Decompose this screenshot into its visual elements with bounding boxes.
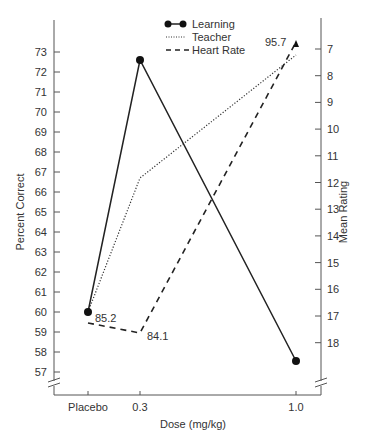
right-tick-label: 11: [327, 150, 338, 162]
right-tick-label: 9: [327, 96, 333, 108]
series-teacher: [88, 55, 296, 312]
legend-learning: Learning: [192, 18, 235, 30]
y-left-axis-title: Percent Correct: [14, 173, 26, 250]
legend-teacher: Teacher: [192, 31, 231, 43]
x-tick-1-0: 1.0: [288, 401, 303, 413]
legend: Learning Teacher Heart Rate: [165, 18, 246, 56]
learning-marker-placebo: [84, 308, 92, 316]
left-tick-label: 65: [35, 206, 47, 218]
left-tick-label: 66: [35, 186, 47, 198]
heart-rate-triangle-marker: [293, 40, 299, 47]
legend-learning-dot-left: [165, 21, 172, 28]
left-tick-label: 70: [35, 106, 47, 118]
series-learning: [88, 60, 296, 361]
right-tick-label: 10: [327, 123, 339, 135]
left-tick-label: 61: [35, 286, 47, 298]
left-tick-label: 72: [35, 66, 47, 78]
learning-marker-1-0: [292, 357, 300, 365]
left-tick-label: 68: [35, 146, 47, 158]
left-tick-label: 59: [35, 326, 47, 338]
y-right-axis-title: Mean Rating: [337, 181, 349, 243]
hr-label-0-3: 84.1: [147, 330, 168, 342]
right-tick-label: 15: [327, 257, 339, 269]
series-heart-rate: [88, 42, 296, 333]
left-tick-label: 73: [35, 46, 47, 58]
hr-label-1-0: 95.7: [265, 36, 286, 48]
x-tick-placebo: Placebo: [68, 401, 108, 413]
learning-marker-0-3: [136, 56, 144, 64]
right-tick-label: 7: [327, 43, 333, 55]
right-tick-label: 18: [327, 337, 339, 349]
right-tick-label: 16: [327, 283, 339, 295]
left-tick-label: 64: [35, 226, 47, 238]
x-tick-0-3: 0.3: [132, 401, 147, 413]
x-axis-title: Dose (mg/kg): [160, 418, 226, 430]
right-axis-ticks: 789101112131415161718: [315, 43, 339, 349]
left-tick-label: 69: [35, 126, 47, 138]
left-tick-label: 63: [35, 246, 47, 258]
chart: 5758596061626364656667686970717273 78910…: [0, 0, 365, 439]
left-tick-label: 60: [35, 306, 47, 318]
left-tick-label: 71: [35, 86, 47, 98]
legend-heart-rate: Heart Rate: [192, 44, 245, 56]
left-tick-label: 58: [35, 346, 47, 358]
right-tick-label: 17: [327, 310, 339, 322]
left-axis-ticks: 5758596061626364656667686970717273: [35, 46, 60, 378]
hr-label-placebo: 85.2: [95, 312, 116, 324]
legend-learning-dot-right: [180, 21, 187, 28]
left-tick-label: 57: [35, 366, 47, 378]
left-tick-label: 67: [35, 166, 47, 178]
left-tick-label: 62: [35, 266, 47, 278]
right-tick-label: 8: [327, 70, 333, 82]
